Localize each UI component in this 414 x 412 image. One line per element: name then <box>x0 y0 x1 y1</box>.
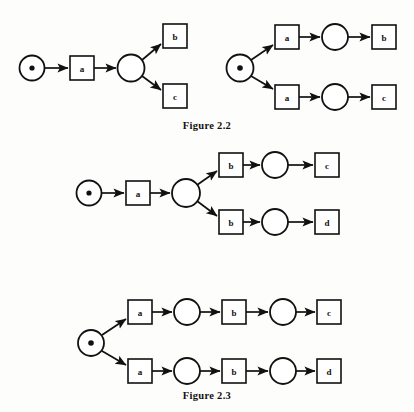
petri-net-fig23-top: abbcd <box>77 152 340 235</box>
start-place-token-dot-icon <box>88 340 94 346</box>
transition-b-label: b <box>172 32 177 42</box>
place-upper-2 <box>270 299 296 325</box>
transition-c-label: c <box>327 308 331 318</box>
petri-net-fig22-left: abc <box>20 24 188 108</box>
arc-choice-to-b-upper-arc <box>197 171 217 185</box>
figure-caption-2-3: Figure 2.3 <box>0 390 414 401</box>
start-place-token-dot-icon <box>86 190 91 195</box>
transition-a-upper-label: a <box>285 33 290 43</box>
transition-d-label: d <box>324 218 329 228</box>
place-lower-1 <box>174 358 200 384</box>
arc-choice-to-b-lower-arc <box>197 201 217 216</box>
start-place-token-dot-icon <box>29 65 34 70</box>
arc-choice-to-c-arc <box>142 76 161 90</box>
arc-start-to-a-lower-arc <box>102 351 126 365</box>
transition-a-upper-label: a <box>138 308 143 318</box>
transition-c-label: c <box>325 161 329 171</box>
choice-place <box>118 55 145 82</box>
arc-start-to-a-upper-arc <box>102 319 126 335</box>
arc-choice-to-b-arc <box>142 44 161 60</box>
transition-c-label: c <box>173 92 177 102</box>
petri-net-fig22-right: aabc <box>227 24 397 110</box>
transition-a-label: a <box>80 64 85 74</box>
petri-net-groups: abcaabcabbcdaabbcd <box>20 24 397 384</box>
choice-place <box>172 179 200 207</box>
place-lower <box>262 209 288 235</box>
transition-b-label: b <box>381 33 386 43</box>
transition-b-lower-label: b <box>231 367 236 377</box>
transition-a-label: a <box>136 189 141 199</box>
transition-b-upper-label: b <box>231 308 236 318</box>
place-lower-2 <box>270 358 296 384</box>
transition-d-label: d <box>326 367 331 377</box>
figure-caption-2-2: Figure 2.2 <box>0 120 414 131</box>
figure-page: abcaabcabbcdaabbcd Figure 2.2 Figure 2.3 <box>0 0 414 412</box>
start-place-token-dot-icon <box>237 65 243 71</box>
place-upper <box>322 24 348 50</box>
arc-start-to-a-lower-arc <box>251 76 273 89</box>
transition-b-upper-label: b <box>228 161 233 171</box>
arc-start-to-a-upper-arc <box>251 45 273 60</box>
transition-a-lower-label: a <box>285 93 290 103</box>
transition-c-label: c <box>382 93 386 103</box>
place-lower <box>322 84 348 110</box>
place-upper <box>262 152 288 178</box>
transition-b-lower-label: b <box>228 218 233 228</box>
transition-a-lower-label: a <box>138 367 143 377</box>
petri-net-fig23-bottom: aabbcd <box>78 299 341 384</box>
place-upper-1 <box>174 299 200 325</box>
petri-net-canvas: abcaabcabbcdaabbcd <box>0 0 414 412</box>
